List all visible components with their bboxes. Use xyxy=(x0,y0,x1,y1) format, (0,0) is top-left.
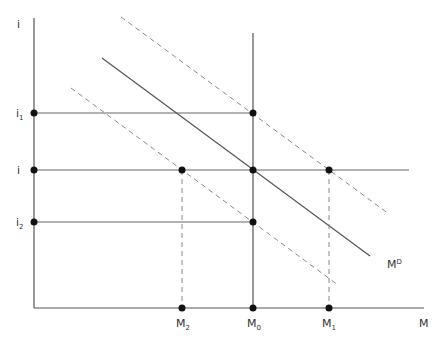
label-m1: M1 xyxy=(322,317,336,332)
money-demand-curve xyxy=(102,58,370,256)
y-axis-label: i xyxy=(17,18,20,31)
label-m2: M2 xyxy=(176,317,190,332)
label-i1: i1 xyxy=(16,107,24,122)
label-m0: M0 xyxy=(247,317,261,332)
money-demand-label: MD xyxy=(387,258,402,271)
label-i2: i2 xyxy=(16,216,24,231)
label-i: i xyxy=(17,164,20,177)
money-market-diagram: i i1 i i2 M2 M0 M1 M MD xyxy=(0,0,442,342)
demand-shift-down xyxy=(71,88,338,285)
x-axis-label: M xyxy=(419,317,429,330)
